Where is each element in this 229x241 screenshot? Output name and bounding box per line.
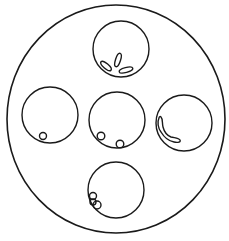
inner-circle-right: [156, 95, 212, 151]
outer-circle: [7, 5, 225, 233]
inner-circle-top: [93, 21, 149, 77]
diagram-svg: [0, 0, 229, 241]
small-loop-icon: [97, 132, 105, 140]
small-loop-icon: [116, 140, 124, 148]
diagram-canvas: [0, 0, 229, 241]
inner-circle-center: [89, 92, 145, 148]
inner-circle-bottom: [88, 162, 144, 218]
petal-loop-icon: [119, 66, 134, 74]
inner-circle-left: [22, 87, 78, 143]
small-loop-icon: [40, 133, 47, 140]
petal-loop-icon: [113, 53, 122, 68]
petal-loop-icon: [99, 60, 112, 72]
